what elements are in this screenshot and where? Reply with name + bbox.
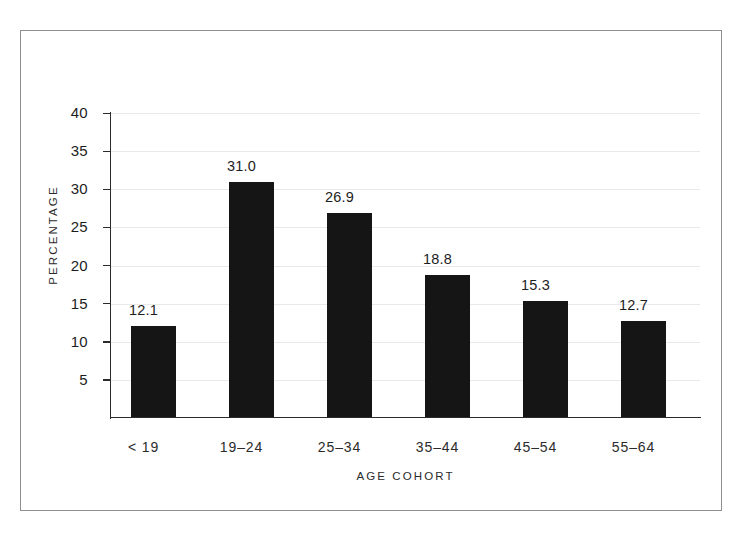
y-axis-title: PERCENTAGE (47, 173, 59, 297)
y-tick-mark-35 (103, 151, 111, 152)
y-tick-mark-20 (103, 265, 111, 266)
x-tick-label-55-64: 55–64 (581, 439, 686, 455)
bar-35-44 (425, 275, 470, 418)
y-tick-label-15: 15 (28, 295, 88, 312)
y-tick-mark-5 (103, 379, 111, 380)
bar-55-64 (621, 321, 666, 418)
y-tick-mark-25 (103, 227, 111, 228)
y-tick-mark-10 (103, 341, 111, 342)
y-tick-mark-30 (103, 189, 111, 190)
x-tick-label-35-44: 35–44 (385, 439, 490, 455)
x-axis-line (110, 417, 701, 418)
bar-lt-19 (131, 326, 176, 418)
bar-25-34 (327, 213, 372, 418)
gridline-35 (111, 151, 700, 152)
gridline-25 (111, 227, 700, 228)
y-tick-label-10: 10 (28, 333, 88, 350)
bar-value-25-34: 26.9 (287, 189, 392, 205)
y-tick-label-40: 40 (28, 104, 88, 121)
y-tick-label-5: 5 (28, 371, 88, 388)
figure-canvas: 40 35 30 25 20 15 10 5 PERCENTAGE 12.1 3… (0, 0, 740, 536)
x-tick-label-25-34: 25–34 (287, 439, 392, 455)
bar-value-55-64: 12.7 (581, 297, 686, 313)
bar-value-19-24: 31.0 (189, 158, 294, 174)
y-tick-label-35: 35 (28, 142, 88, 159)
bar-45-54 (523, 301, 568, 418)
x-tick-label-45-54: 45–54 (483, 439, 588, 455)
gridline-10 (111, 342, 700, 343)
gridline-5 (111, 380, 700, 381)
gridline-30 (111, 189, 700, 190)
gridline-40 (111, 113, 700, 114)
bar-value-45-54: 15.3 (483, 277, 588, 293)
bar-19-24 (229, 182, 274, 418)
x-tick-label-19-24: 19–24 (189, 439, 294, 455)
y-tick-mark-40 (103, 113, 111, 114)
bar-value-35-44: 18.8 (385, 251, 490, 267)
bar-value-lt-19: 12.1 (91, 302, 196, 318)
x-axis-title: AGE COHORT (111, 470, 700, 482)
x-tick-label-lt-19: < 19 (91, 439, 196, 455)
